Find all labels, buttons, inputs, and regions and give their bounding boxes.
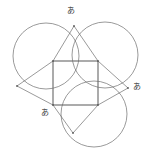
vertex-dot-apex-left <box>16 85 18 87</box>
geometry-figure: あ あ あ <box>0 0 152 157</box>
vertex-dot-apex-top <box>73 25 75 27</box>
circle-bottom <box>61 81 127 147</box>
triangle-right <box>98 61 128 105</box>
vertex-dot-apex-right <box>127 87 129 89</box>
circles-group <box>13 22 138 147</box>
triangle-bottom <box>53 105 98 133</box>
circle-upper-right <box>72 22 138 88</box>
vertex-dots-group <box>16 25 129 134</box>
circle-upper-left <box>13 23 79 89</box>
vertex-dot-apex-bottom <box>72 132 74 134</box>
triangle-left <box>17 61 53 105</box>
angle-label-bottom-left: あ <box>41 109 49 117</box>
angle-label-top: あ <box>67 7 75 15</box>
vertex-dot-square-bl <box>52 104 54 106</box>
vertex-dot-square-tl <box>52 60 54 62</box>
triangle-top <box>53 26 98 61</box>
vertex-dot-square-tr <box>97 60 99 62</box>
vertex-dot-square-br <box>97 104 99 106</box>
triangles-group <box>17 26 128 133</box>
central-square <box>53 61 98 105</box>
angle-label-right: あ <box>133 83 141 91</box>
figure-canvas <box>0 0 152 157</box>
square-group <box>53 61 98 105</box>
